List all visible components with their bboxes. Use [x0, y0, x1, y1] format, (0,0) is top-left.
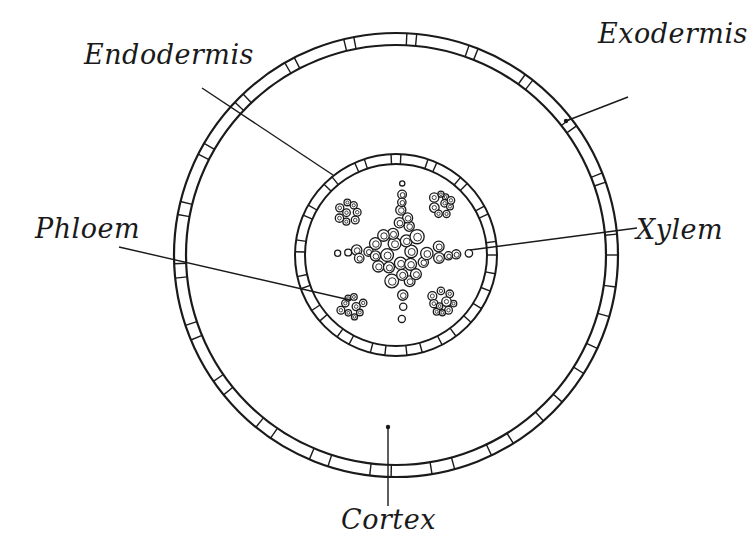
label-cortex: Cortex	[341, 506, 436, 533]
exodermis-ring	[174, 33, 618, 477]
diagram-canvas	[0, 0, 756, 560]
label-phloem: Phloem	[35, 215, 140, 242]
root-cross-section-diagram: Endodermis Exodermis Phloem Xylem Cortex	[0, 0, 756, 560]
label-endodermis: Endodermis	[84, 41, 254, 68]
label-exodermis: Exodermis	[598, 20, 748, 47]
label-xylem: Xylem	[636, 216, 723, 243]
leader-lines	[119, 88, 637, 506]
